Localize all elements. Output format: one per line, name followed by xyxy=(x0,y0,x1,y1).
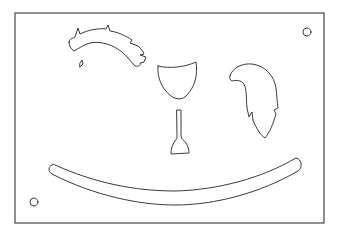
board-outline xyxy=(15,13,324,223)
template-canvas xyxy=(0,0,338,236)
template-drawing xyxy=(0,0,338,236)
